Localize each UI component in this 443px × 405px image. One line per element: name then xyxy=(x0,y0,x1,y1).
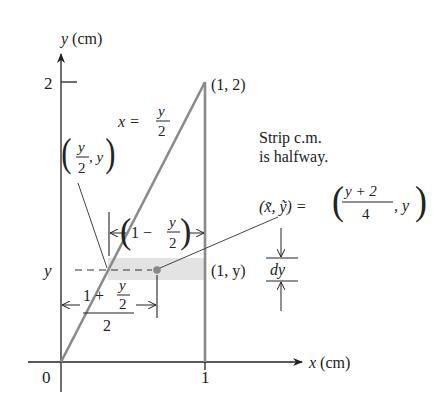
width-dim-close-paren: ) xyxy=(180,211,191,251)
leader-left-point xyxy=(78,183,107,268)
origin-label: 0 xyxy=(42,368,51,387)
half-dim-num-one: 1 + xyxy=(83,287,104,304)
width-dim-one: 1 − xyxy=(131,224,152,241)
half-dim-den: 2 xyxy=(103,317,111,334)
half-dim-num-2: 2 xyxy=(119,296,127,312)
cm-den: 4 xyxy=(362,206,370,222)
left-point-close-paren: ) xyxy=(105,131,115,174)
y-axis-label: y (cm) xyxy=(59,30,102,48)
strip-note-line2: is halfway. xyxy=(259,148,328,166)
apex-label: (1, 2) xyxy=(211,76,246,94)
dy-label: dy xyxy=(270,261,286,279)
strip-note-line1: Strip c.m. xyxy=(259,129,322,147)
left-point-tail: , y xyxy=(89,149,104,165)
cm-close-paren: ) xyxy=(415,179,427,224)
cm-num: y + 2 xyxy=(343,183,377,199)
width-dim-open-paren: ( xyxy=(120,211,131,251)
y-tick-label-2: 2 xyxy=(44,74,53,93)
line-eq-lhs: x = xyxy=(117,113,140,130)
left-point-num: y xyxy=(76,139,85,155)
cm-open-paren: ( xyxy=(332,179,344,224)
right-point-label: (1, y) xyxy=(211,262,246,280)
left-point-den: 2 xyxy=(78,160,86,176)
strip-y-label: y xyxy=(42,261,52,280)
cm-tail: , y xyxy=(394,197,410,215)
x-axis-label: x (cm) xyxy=(308,354,350,372)
width-dim-num: y xyxy=(167,214,176,230)
width-dim-den: 2 xyxy=(169,235,177,251)
line-eq-num: y xyxy=(156,103,165,119)
x-tick-label-1: 1 xyxy=(201,368,210,387)
half-dim-num-y: y xyxy=(117,277,126,293)
leader-cm xyxy=(160,217,278,268)
strip-center-dot xyxy=(153,266,161,274)
center-of-mass-diagram: y (cm) x (cm) 2 0 1 y (1, 2) x = y 2 ( y… xyxy=(0,0,443,405)
line-eq-den: 2 xyxy=(158,123,166,139)
left-point-open-paren: ( xyxy=(61,131,71,174)
cm-lhs: (x̃, ỹ) = xyxy=(259,198,307,216)
